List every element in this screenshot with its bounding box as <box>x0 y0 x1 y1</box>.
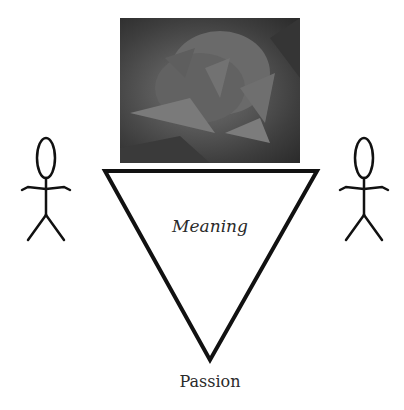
diagram-canvas <box>0 0 404 410</box>
right-figure-head <box>355 138 373 178</box>
left-figure-head <box>37 138 55 178</box>
meaning-triangle <box>105 171 317 360</box>
left-stick-figure <box>22 138 70 240</box>
meaning-label: Meaning <box>165 216 255 236</box>
passion-label: Passion <box>160 372 260 391</box>
right-stick-figure <box>340 138 388 240</box>
